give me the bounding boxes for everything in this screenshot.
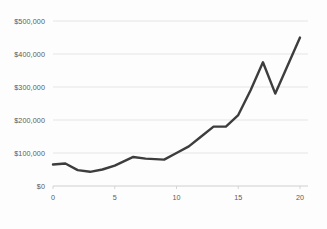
x-axis-tick-label: 5	[113, 193, 117, 202]
line-chart: $0$100,000$200,000$300,000$400,000$500,0…	[0, 0, 327, 229]
x-axis-tick-label: 0	[51, 193, 55, 202]
gridlines-group	[53, 21, 308, 186]
x-axis-tick-label: 10	[173, 193, 181, 202]
data-series-line	[53, 38, 300, 172]
x-axis-tick-label: 15	[234, 193, 242, 202]
x-axis-tick-label: 20	[296, 193, 304, 202]
y-axis-tick-label: $400,000	[0, 50, 45, 59]
y-axis-tick-label: $200,000	[0, 116, 45, 125]
y-axis-tick-label: $0	[0, 182, 45, 191]
y-axis-tick-label: $500,000	[0, 17, 45, 26]
chart-plot-area	[0, 0, 327, 229]
y-axis-tick-label: $300,000	[0, 83, 45, 92]
y-axis-tick-label: $100,000	[0, 149, 45, 158]
